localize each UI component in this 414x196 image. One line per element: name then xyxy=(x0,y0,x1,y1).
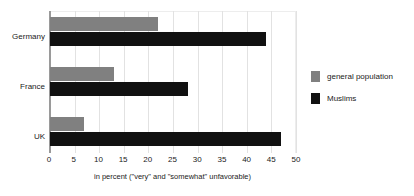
x-tick-0: 0 xyxy=(47,155,51,164)
x-axis-label: in percent ("very" and "somewhat" unfavo… xyxy=(49,172,296,181)
category-label-germany: Germany xyxy=(1,32,45,41)
bar-uk-Muslims xyxy=(50,132,281,146)
bar-uk-general-population xyxy=(50,117,84,131)
bar-france-general-population xyxy=(50,67,114,81)
category-label-uk: UK xyxy=(1,132,45,141)
x-axis-tick-labels: 05101520253035404550 xyxy=(49,155,296,167)
bar-germany-general-population xyxy=(50,17,158,31)
x-tick-5: 5 xyxy=(71,155,75,164)
bar-chart-figure: GermanyFranceUK 05101520253035404550 in … xyxy=(0,0,414,196)
bar-group-germany xyxy=(50,17,296,47)
x-tick-40: 40 xyxy=(242,155,251,164)
bar-germany-Muslims xyxy=(50,32,266,46)
bar-group-france xyxy=(50,67,296,97)
plot-area xyxy=(49,11,296,153)
legend-swatch-icon xyxy=(311,93,320,104)
x-tick-25: 25 xyxy=(168,155,177,164)
x-tick-15: 15 xyxy=(119,155,128,164)
x-tick-20: 20 xyxy=(143,155,152,164)
x-tick-45: 45 xyxy=(267,155,276,164)
legend-label: Muslims xyxy=(327,94,356,103)
legend-label: general population xyxy=(327,72,393,81)
legend-item-general-population[interactable]: general population xyxy=(311,70,411,82)
x-tick-35: 35 xyxy=(217,155,226,164)
gridline-50 xyxy=(296,11,297,153)
legend-swatch-icon xyxy=(311,71,320,82)
bar-group-uk xyxy=(50,117,296,147)
x-tick-10: 10 xyxy=(94,155,103,164)
x-tick-50: 50 xyxy=(292,155,301,164)
legend: general populationMuslims xyxy=(311,70,411,114)
category-label-france: France xyxy=(1,82,45,91)
x-tick-30: 30 xyxy=(193,155,202,164)
category-axis-labels: GermanyFranceUK xyxy=(0,11,45,153)
legend-item-Muslims[interactable]: Muslims xyxy=(311,92,411,104)
bar-france-Muslims xyxy=(50,82,188,96)
